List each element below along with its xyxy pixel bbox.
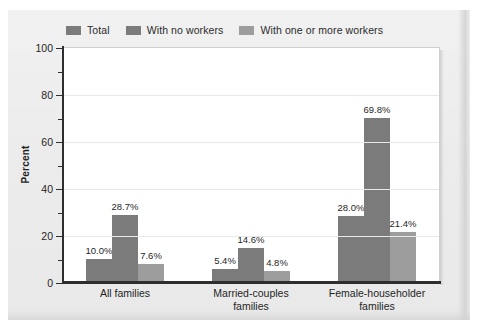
x-category-label-line: families bbox=[329, 300, 425, 313]
gridline bbox=[62, 95, 439, 96]
y-tick-label: 40 bbox=[41, 183, 53, 195]
x-axis-category-labels: All familiesMarried-couplesfamiliesFemal… bbox=[62, 287, 441, 321]
x-axis-line bbox=[62, 281, 441, 284]
bar: 21.4% bbox=[390, 232, 416, 282]
y-axis-line bbox=[62, 46, 64, 283]
legend-swatch-icon bbox=[239, 26, 254, 35]
y-tick-label: 0 bbox=[47, 277, 53, 289]
panel-right-shadow bbox=[458, 10, 470, 320]
x-category-label-line: Female-householder bbox=[329, 287, 425, 300]
y-tick-label: 80 bbox=[41, 89, 53, 101]
legend-swatch-icon bbox=[66, 26, 81, 35]
y-tick-label: 20 bbox=[41, 230, 53, 242]
y-axis-title: Percent bbox=[18, 47, 32, 282]
x-category-label-line: Married-couples bbox=[213, 287, 288, 300]
bar: 10.0% bbox=[86, 259, 112, 283]
legend-entry: With one or more workers bbox=[239, 24, 383, 36]
bar-value-label: 7.6% bbox=[140, 250, 162, 261]
bar: 14.6% bbox=[238, 248, 264, 282]
chart-figure: TotalWith no workersWith one or more wor… bbox=[0, 0, 483, 330]
gridline bbox=[62, 236, 439, 237]
x-category-label: All families bbox=[100, 287, 150, 300]
gridline bbox=[62, 189, 439, 190]
y-axis-title-label: Percent bbox=[20, 145, 31, 183]
y-tick-label: 60 bbox=[41, 136, 53, 148]
legend-swatch-icon bbox=[126, 26, 141, 35]
x-category-label-line: All families bbox=[100, 287, 150, 300]
legend-label: Total bbox=[87, 24, 110, 36]
bars-layer: 10.0%28.7%7.6%5.4%14.6%4.8%28.0%69.8%21.… bbox=[62, 48, 439, 282]
legend-entry: Total bbox=[66, 24, 110, 36]
y-tick-label: 100 bbox=[35, 42, 53, 54]
bar-value-label: 28.7% bbox=[112, 201, 139, 212]
bar: 7.6% bbox=[138, 264, 164, 282]
bar-value-label: 4.8% bbox=[266, 257, 288, 268]
bar-value-label: 21.4% bbox=[390, 218, 417, 229]
bar-value-label: 10.0% bbox=[86, 245, 113, 256]
x-category-label: Married-couplesfamilies bbox=[213, 287, 288, 313]
bar-value-label: 5.4% bbox=[214, 255, 236, 266]
plot-area: 10.0%28.7%7.6%5.4%14.6%4.8%28.0%69.8%21.… bbox=[62, 47, 440, 282]
bar-value-label: 28.0% bbox=[338, 202, 365, 213]
chart-legend: TotalWith no workersWith one or more wor… bbox=[66, 24, 399, 36]
bar: 28.7% bbox=[112, 215, 138, 282]
legend-label: With one or more workers bbox=[260, 24, 383, 36]
x-category-label-line: families bbox=[213, 300, 288, 313]
bar-value-label: 69.8% bbox=[364, 104, 391, 115]
legend-label: With no workers bbox=[147, 24, 224, 36]
x-category-label: Female-householderfamilies bbox=[329, 287, 425, 313]
legend-entry: With no workers bbox=[126, 24, 224, 36]
gridline bbox=[62, 142, 439, 143]
plot-right-shadow bbox=[440, 50, 444, 285]
bar: 28.0% bbox=[338, 216, 364, 282]
